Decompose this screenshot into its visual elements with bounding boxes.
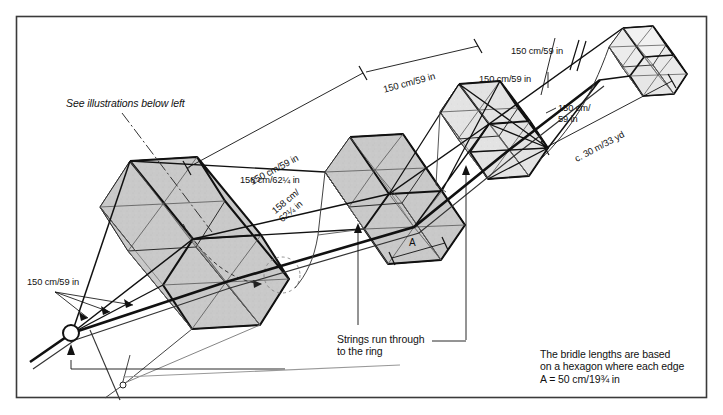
kite-cell-2 [325, 134, 465, 264]
string-tail-cell2 [295, 172, 325, 288]
tail-line-1 [90, 330, 120, 400]
tail-junction-node [120, 382, 126, 388]
ring-callout-baseline [123, 365, 400, 377]
note-strings-line2: to the ring [337, 345, 424, 357]
string-tail-cell3 [436, 112, 446, 192]
kite-cell-4 [609, 26, 687, 96]
dim-bar-150-top-left [187, 73, 363, 168]
leader-150-cell3-right [546, 108, 556, 113]
label-span-150-cell3-right-line1: 150 cm/ [558, 103, 590, 114]
label-edge-marker-a: A [409, 237, 416, 249]
note-strings-group: Strings run through to the ring [337, 333, 424, 358]
kite-diagram: 150 cm/59 in 150 cm/59 in 150 cm/59 in 1… [0, 0, 723, 415]
note-bridle-line1: The bridle lengths are based [540, 348, 684, 360]
strings-pointer-right-arrow [462, 165, 470, 175]
dim-tick-150-top-left-b [359, 66, 367, 80]
label-span-150-cell3-top: 150 cm/59 in [511, 46, 563, 57]
dim-tick-150-top-mid-b [474, 39, 482, 53]
note-strings-line1: Strings run through [337, 333, 424, 345]
dim-bar-150-top-mid [366, 46, 478, 72]
note-see-illustrations: See illustrations below left [66, 97, 185, 109]
bridle-ring [63, 325, 79, 341]
label-span-150-bottom-left: 150 cm/59 in [27, 277, 79, 288]
label-diag-158-chord: 158 cm/62¼ in [240, 175, 300, 186]
label-span-150-cell3-right-line2: 59 in [558, 114, 590, 125]
ring-callout-arrow [67, 344, 75, 355]
leader-arrowhead-3 [124, 299, 133, 308]
leader-bottomleft-a [55, 292, 88, 318]
note-bridle-group: The bridle lengths are based on a hexago… [540, 348, 684, 385]
label-span-150-cell3-left: 150 cm/59 in [479, 74, 531, 85]
note-bridle-line2: on a hexagon where each edge [540, 360, 684, 372]
bridle-ring-group [63, 325, 79, 341]
label-span-150-cell3-right-group: 150 cm/ 59 in [558, 103, 590, 125]
note-bridle-line3: A = 50 cm/19¾ in [540, 373, 684, 385]
